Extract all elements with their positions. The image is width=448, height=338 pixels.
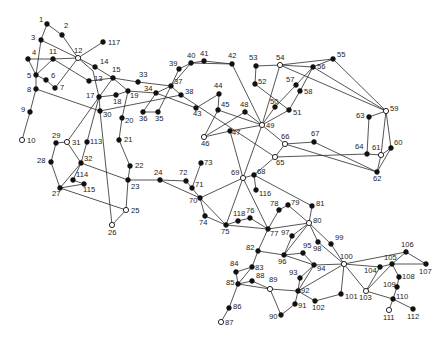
node-31-open-circle-icon xyxy=(64,139,69,144)
node-53-dot-icon xyxy=(254,64,259,69)
node-label-4: 4 xyxy=(32,48,36,57)
node-29-dot-icon xyxy=(54,141,59,146)
node-2-dot-icon xyxy=(60,33,65,38)
node-label-107: 107 xyxy=(419,267,432,276)
node-9-dot-icon xyxy=(28,110,33,115)
node-label-56: 56 xyxy=(317,62,325,71)
node-label-49: 49 xyxy=(266,121,274,130)
node-label-15: 15 xyxy=(112,65,120,74)
node-83-dot-icon xyxy=(250,265,255,270)
node-label-24: 24 xyxy=(154,168,162,177)
node-87-open-circle-icon xyxy=(218,319,223,324)
edge-59-60 xyxy=(386,111,391,148)
node-24-dot-icon xyxy=(158,178,163,183)
edge-106-107 xyxy=(406,252,426,264)
node-label-35: 35 xyxy=(155,114,163,123)
node-108-dot-icon xyxy=(397,275,402,280)
node-label-54: 54 xyxy=(276,53,284,62)
node-label-33: 33 xyxy=(139,70,147,79)
node-59-open-circle-icon xyxy=(383,108,388,113)
node-label-34: 34 xyxy=(144,84,152,93)
node-80-open-circle-icon xyxy=(306,220,311,225)
node-label-64: 64 xyxy=(355,142,363,151)
node-label-37: 37 xyxy=(174,77,182,86)
edge-55-59 xyxy=(333,59,386,111)
node-117-dot-icon xyxy=(101,40,106,45)
node-label-30: 30 xyxy=(103,110,111,119)
edge-24-72 xyxy=(160,180,186,181)
edge-17-113 xyxy=(87,97,99,142)
node-93-dot-icon xyxy=(298,276,303,281)
edge-101-102 xyxy=(315,294,341,301)
node-label-75: 75 xyxy=(221,227,229,236)
edge-11-13 xyxy=(53,59,89,81)
node-label-8: 8 xyxy=(27,85,31,94)
node-60-dot-icon xyxy=(389,146,394,151)
node-42-dot-icon xyxy=(230,62,235,67)
node-label-91: 91 xyxy=(298,301,306,310)
node-label-100: 100 xyxy=(340,252,353,261)
edge-42-49 xyxy=(232,64,262,125)
node-label-93: 93 xyxy=(289,268,297,277)
node-label-52: 52 xyxy=(258,77,266,86)
node-label-111: 111 xyxy=(383,313,395,322)
node-label-65: 65 xyxy=(276,158,284,167)
edge-27-115 xyxy=(60,184,84,188)
node-106-dot-icon xyxy=(404,250,409,255)
node-114-dot-icon xyxy=(71,178,76,183)
node-label-1: 1 xyxy=(39,15,43,24)
node-label-112: 112 xyxy=(407,312,419,321)
node-5-dot-icon xyxy=(34,73,39,78)
edge-95-96 xyxy=(284,253,303,255)
node-101-dot-icon xyxy=(339,292,344,297)
node-label-60: 60 xyxy=(394,138,402,147)
edge-1-2 xyxy=(47,24,62,35)
edge-54-59 xyxy=(280,65,386,111)
node-21-dot-icon xyxy=(117,138,122,143)
node-label-26: 26 xyxy=(108,228,116,237)
node-label-114: 114 xyxy=(76,170,88,179)
node-label-21: 21 xyxy=(124,135,132,144)
node-label-11: 11 xyxy=(49,47,57,56)
node-97-dot-icon xyxy=(290,234,295,239)
edge-77-82 xyxy=(258,229,268,251)
node-15-dot-icon xyxy=(111,76,116,81)
node-label-2: 2 xyxy=(64,21,68,30)
node-78-dot-icon xyxy=(277,208,282,213)
node-label-86: 86 xyxy=(233,302,241,311)
node-label-90: 90 xyxy=(269,312,277,321)
edge-28-29 xyxy=(51,143,56,162)
edge-79-80 xyxy=(288,205,309,223)
node-26-open-circle-icon xyxy=(109,222,114,227)
node-10-open-circle-icon xyxy=(19,137,24,142)
node-label-25: 25 xyxy=(131,206,139,215)
node-label-10: 10 xyxy=(27,136,35,145)
node-41-dot-icon xyxy=(202,59,207,64)
node-label-118: 118 xyxy=(233,209,245,218)
node-52-dot-icon xyxy=(253,82,258,87)
node-38-dot-icon xyxy=(179,93,184,98)
node-84-dot-icon xyxy=(234,270,239,275)
node-25-open-circle-icon xyxy=(123,207,128,212)
node-label-5: 5 xyxy=(27,71,31,80)
edge-82-96 xyxy=(258,251,284,255)
node-label-78: 78 xyxy=(270,199,278,208)
node-label-29: 29 xyxy=(52,131,60,140)
node-label-95: 95 xyxy=(303,241,311,250)
node-label-28: 28 xyxy=(37,156,45,165)
node-label-12: 12 xyxy=(74,46,82,55)
node-8-dot-icon xyxy=(34,87,39,92)
edge-89-92 xyxy=(270,289,298,291)
node-20-dot-icon xyxy=(120,116,125,121)
node-label-45: 45 xyxy=(221,100,229,109)
edge-33-37 xyxy=(138,82,171,86)
node-49-open-circle-icon xyxy=(259,122,264,127)
node-28-dot-icon xyxy=(49,160,54,165)
node-label-84: 84 xyxy=(230,259,238,268)
edge-11-12 xyxy=(53,58,78,59)
node-34-dot-icon xyxy=(154,91,159,96)
node-23-dot-icon xyxy=(126,178,131,183)
node-58-dot-icon xyxy=(298,89,303,94)
node-label-81: 81 xyxy=(316,199,324,208)
node-118-dot-icon xyxy=(236,219,241,224)
